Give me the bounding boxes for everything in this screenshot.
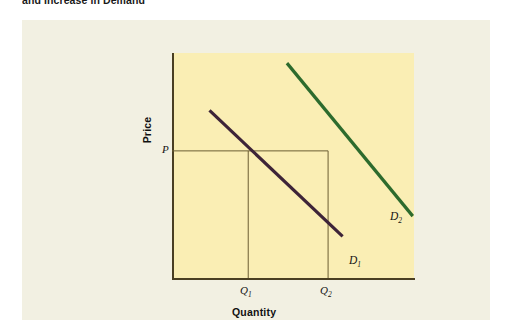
demand-curve-label-d2: D2 [390,210,402,225]
figure-panel: Price Quantity P Q1 Q2 D1 D2 [22,20,490,320]
quantity-axis-label-q1: Q1 [240,284,252,299]
plot-area [172,53,414,278]
price-axis-label-p: P [162,143,169,155]
demand-curve-label-d1: D1 [349,254,361,269]
q1-label-subscript: 1 [248,290,252,299]
q2-label-text: Q [320,284,328,296]
figure-caption: and Increase in Demand [22,0,482,6]
d1-label-subscript: 1 [357,260,361,269]
price-label-text: P [162,143,169,155]
x-axis-title: Quantity [232,306,276,318]
y-axis-title: Price [141,108,153,152]
q1-label-text: Q [240,284,248,296]
y-axis-line [172,53,174,280]
quantity-axis-label-q2: Q2 [320,284,332,299]
q2-label-subscript: 2 [328,290,332,299]
x-axis-line [172,278,415,280]
d2-label-subscript: 2 [398,216,402,225]
